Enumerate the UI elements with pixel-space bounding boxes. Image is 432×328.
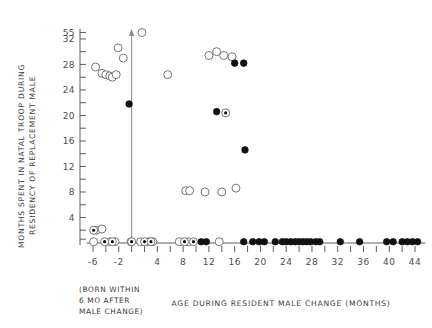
x-axis-title: AGE DURING RESIDENT MALE CHANGE (MONTHS) — [171, 299, 390, 308]
data-points-group — [90, 29, 421, 246]
x-tick-label: 24 — [280, 257, 292, 267]
data-point-open — [205, 52, 213, 60]
y-tick-label: 4 — [69, 213, 75, 223]
plot-svg: -6-2481216202428323640444812162024283255… — [0, 0, 432, 328]
annotation-group — [129, 29, 134, 243]
y-tick-label: 16 — [63, 136, 75, 146]
data-point-filled — [249, 238, 256, 245]
data-point-dotted-core — [111, 240, 114, 243]
data-point-open — [138, 29, 146, 37]
data-point-open — [220, 52, 228, 60]
x-tick-label: 40 — [383, 257, 395, 267]
x-tick-label: 44 — [409, 257, 421, 267]
data-point-open — [164, 71, 172, 79]
x-tick-label: -2 — [114, 257, 124, 267]
data-point-filled — [272, 238, 279, 245]
axis-labels-group: -6-2481216202428323640444812162024283255… — [17, 28, 421, 316]
data-point-filled — [261, 238, 268, 245]
data-point-filled — [390, 238, 397, 245]
data-point-filled — [231, 60, 238, 67]
x-tick-label: 28 — [306, 257, 318, 267]
data-point-filled — [337, 238, 344, 245]
data-point-filled — [383, 238, 390, 245]
data-point-filled — [240, 238, 247, 245]
data-point-dotted-core — [92, 229, 95, 232]
data-point-dotted-core — [143, 240, 146, 243]
data-point-open — [215, 238, 223, 246]
data-point-open — [119, 54, 127, 62]
born-within-note-line: (BORN WITHIN — [79, 285, 140, 294]
data-point-filled — [213, 108, 220, 115]
y-tick-label: 24 — [63, 85, 75, 95]
data-point-dotted-core — [149, 240, 152, 243]
data-point-filled — [414, 238, 421, 245]
data-point-open — [112, 71, 120, 79]
born-within-note-line: MALE CHANGE) — [79, 307, 143, 316]
data-point-dotted-core — [192, 240, 195, 243]
male-change-event-arrow — [129, 29, 134, 36]
y-tick-label: 55 — [63, 28, 75, 38]
data-point-open — [218, 188, 226, 196]
data-point-open — [232, 184, 240, 192]
data-point-open — [90, 238, 98, 246]
y-tick-label: 8 — [69, 187, 75, 197]
x-tick-label: 8 — [180, 257, 186, 267]
data-point-open — [98, 225, 106, 233]
data-point-open — [92, 63, 100, 71]
data-point-dotted-core — [224, 111, 227, 114]
born-within-note-line: 6 MO AFTER — [79, 296, 130, 305]
y-axis-title-line1: MONTHS SPENT IN NATAL TROOP DURING — [17, 64, 26, 248]
data-point-dotted-core — [103, 240, 106, 243]
data-point-dotted-core — [130, 240, 133, 243]
data-point-filled — [203, 238, 210, 245]
data-point-open — [186, 187, 194, 195]
y-tick-label: 28 — [63, 60, 75, 70]
x-tick-label: 20 — [254, 257, 266, 267]
x-tick-label: 36 — [357, 257, 369, 267]
data-point-open — [114, 44, 122, 52]
data-point-filled — [126, 101, 133, 108]
data-point-filled — [356, 238, 363, 245]
data-point-filled — [240, 60, 247, 67]
scatter-chart: -6-2481216202428323640444812162024283255… — [0, 0, 432, 328]
data-point-filled — [316, 238, 323, 245]
y-tick-label: 12 — [63, 162, 75, 172]
data-point-filled — [242, 147, 249, 154]
x-tick-label: 32 — [332, 257, 344, 267]
x-tick-label: 12 — [203, 257, 215, 267]
x-tick-label: 16 — [229, 257, 241, 267]
data-point-open — [201, 188, 209, 196]
data-point-dotted-core — [183, 240, 186, 243]
y-axis-title-line2: RESIDENCY OF REPLACEMENT MALE — [28, 76, 37, 235]
y-tick-label: 20 — [63, 111, 75, 121]
x-tick-label: -6 — [88, 257, 98, 267]
x-tick-label: 4 — [154, 257, 160, 267]
